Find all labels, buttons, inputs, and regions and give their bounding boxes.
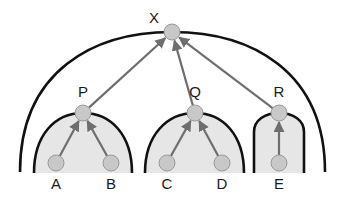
node-C	[159, 155, 175, 171]
node-label-A: A	[51, 175, 61, 192]
node-label-Q: Q	[189, 83, 201, 100]
edge-P-X	[89, 38, 165, 108]
node-label-E: E	[274, 175, 284, 192]
node-B	[103, 155, 119, 171]
node-label-D: D	[217, 175, 228, 192]
node-label-C: C	[162, 175, 173, 192]
node-label-X: X	[149, 9, 159, 26]
node-P	[75, 105, 91, 121]
node-X	[164, 24, 180, 40]
node-label-B: B	[106, 175, 116, 192]
node-R	[271, 105, 287, 121]
node-D	[214, 155, 230, 171]
node-E	[271, 155, 287, 171]
node-A	[48, 155, 64, 171]
node-label-P: P	[78, 83, 88, 100]
node-Q	[187, 105, 203, 121]
node-label-R: R	[274, 83, 285, 100]
tree-diagram: XPQRABCDE	[0, 0, 344, 206]
